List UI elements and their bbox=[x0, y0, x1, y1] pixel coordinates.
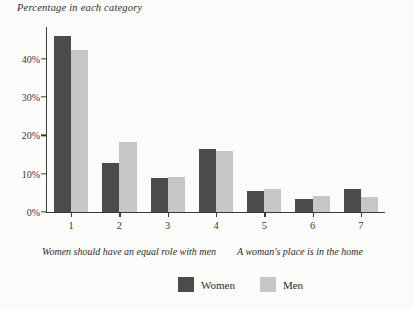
bar-women-3 bbox=[151, 178, 168, 213]
bar-men-5 bbox=[264, 189, 281, 212]
bar-chart: Percentage in each category 0%10%20%30%4… bbox=[0, 0, 414, 310]
x-tick-label: 1 bbox=[69, 220, 74, 231]
x-tick-mark bbox=[168, 212, 169, 217]
x-tick-mark bbox=[216, 212, 217, 217]
legend-item-women: Women bbox=[178, 277, 235, 292]
plot-area bbox=[47, 28, 385, 212]
y-tick-mark bbox=[41, 135, 46, 136]
y-tick-label: 10% bbox=[22, 168, 40, 179]
x-tick-label: 6 bbox=[310, 220, 315, 231]
x-tick-mark bbox=[119, 212, 120, 217]
legend-label: Women bbox=[201, 279, 235, 291]
x-tick-mark bbox=[264, 212, 265, 217]
y-tick-mark bbox=[41, 173, 46, 174]
x-tick-label: 2 bbox=[117, 220, 122, 231]
x-tick-mark bbox=[361, 212, 362, 217]
bar-women-4 bbox=[199, 149, 216, 212]
legend-swatch-women bbox=[178, 277, 194, 292]
y-tick-label: 0% bbox=[27, 207, 40, 218]
legend-label: Men bbox=[283, 279, 303, 291]
bar-women-6 bbox=[295, 199, 312, 212]
y-tick-label: 20% bbox=[22, 130, 40, 141]
y-tick-label: 40% bbox=[22, 53, 40, 64]
bar-men-1 bbox=[71, 50, 88, 212]
bar-women-5 bbox=[247, 191, 264, 212]
legend-item-men: Men bbox=[260, 277, 303, 292]
chart-title: Percentage in each category bbox=[17, 2, 142, 13]
x-tick-label: 4 bbox=[213, 220, 218, 231]
x-axis-caption-left: Women should have an equal role with men bbox=[42, 246, 216, 257]
y-tick-mark bbox=[41, 96, 46, 97]
x-axis-caption-right: A woman's place is in the home bbox=[237, 246, 363, 257]
y-tick-label: 30% bbox=[22, 92, 40, 103]
legend-swatch-men bbox=[260, 277, 276, 292]
bar-women-1 bbox=[54, 36, 71, 212]
x-tick-label: 7 bbox=[358, 220, 363, 231]
bar-men-7 bbox=[361, 197, 378, 212]
y-tick-mark bbox=[41, 58, 46, 59]
bar-men-4 bbox=[216, 151, 233, 212]
bar-women-7 bbox=[344, 189, 361, 212]
bar-women-2 bbox=[102, 163, 119, 212]
x-tick-mark bbox=[71, 212, 72, 217]
x-tick-label: 5 bbox=[262, 220, 267, 231]
bar-men-3 bbox=[168, 177, 185, 212]
y-tick-mark bbox=[41, 211, 46, 212]
x-tick-label: 3 bbox=[165, 220, 170, 231]
bar-men-6 bbox=[313, 196, 330, 212]
x-tick-mark bbox=[313, 212, 314, 217]
bar-men-2 bbox=[119, 142, 136, 212]
chart-legend: WomenMen bbox=[178, 277, 319, 292]
